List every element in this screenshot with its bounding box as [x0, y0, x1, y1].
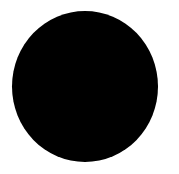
black-circle: [12, 11, 158, 162]
